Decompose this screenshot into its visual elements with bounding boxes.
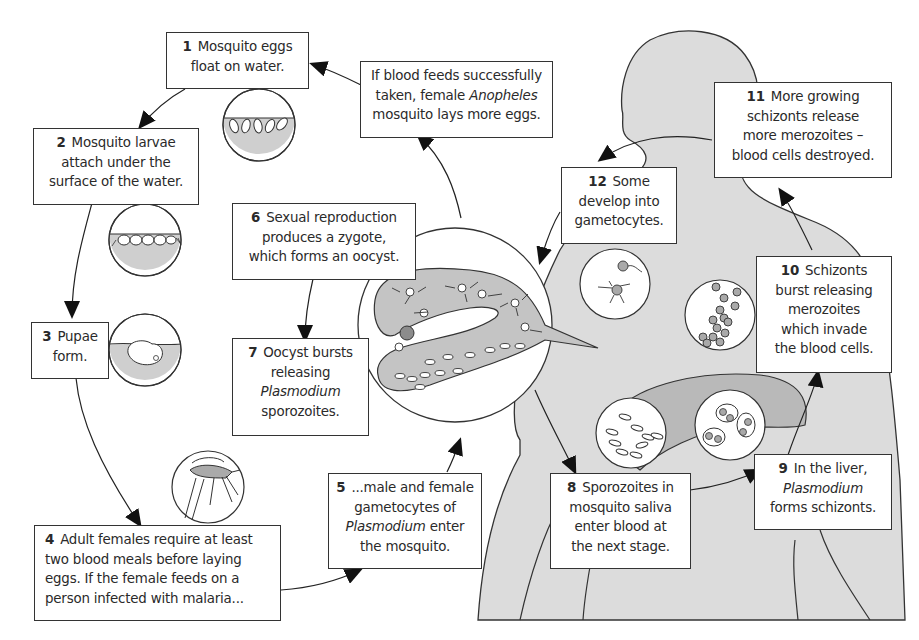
step-2-box: 2Mosquito larvae attach under the surfac…: [33, 128, 199, 205]
malaria-life-cycle-diagram: 1Mosquito eggs float on water. If blood …: [0, 0, 919, 640]
feedback-box: If blood feeds successfully taken, femal…: [360, 61, 553, 138]
step-4-box: 4Adult females require at least two bloo…: [34, 525, 281, 621]
step-6-box: 6Sexual reproduction produces a zygote, …: [232, 203, 416, 280]
gametocytes-in-blood-icon: [580, 249, 650, 319]
larvae-under-surface-icon: [109, 204, 181, 276]
liver-schizonts-icon: [695, 390, 765, 460]
step-10-box: 10Schizonts burst releasing merozoites w…: [756, 256, 892, 373]
step-11-box: 11More growing schizonts release more me…: [714, 82, 892, 178]
step-12-box: 12Some develop into gametocytes.: [561, 167, 677, 244]
step-9-box: 9In the liver, Plasmodium forms schizont…: [754, 454, 892, 530]
mosquito-feeding-icon: [172, 451, 244, 523]
eggs-on-water-icon: [223, 89, 295, 161]
step-5-box: 5...male and female gametocytes of Plasm…: [328, 473, 482, 569]
step-7-box: 7Oocyst bursts releasing Plasmodium spor…: [232, 338, 369, 436]
step-3-box: 3Pupae form.: [31, 322, 109, 379]
sporozoites-icon: [596, 398, 666, 468]
step-8-box: 8Sporozoites in mosquito saliva enter bl…: [550, 473, 691, 569]
pupa-in-water-icon: [109, 314, 181, 386]
merozoites-icon: [685, 280, 755, 350]
step-1-box: 1Mosquito eggs float on water.: [166, 32, 309, 89]
